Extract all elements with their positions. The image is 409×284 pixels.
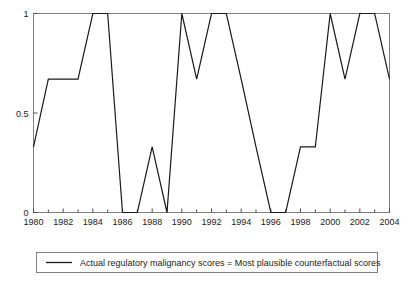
x-tick-label: 1988 <box>142 217 162 227</box>
x-tick-label: 1984 <box>83 217 103 227</box>
x-tick-label: 1992 <box>201 217 221 227</box>
x-tick-label: 2000 <box>320 217 340 227</box>
x-tick-label: 1982 <box>53 217 73 227</box>
x-tick-label: 1996 <box>261 217 281 227</box>
legend-entry-label: Actual regulatory malignancy scores = Mo… <box>80 258 381 268</box>
y-tick-label: 0.5 <box>16 109 29 119</box>
x-tick-label: 2004 <box>379 217 399 227</box>
chart-figure: 00.51 1980198219841986198819901992199419… <box>0 0 409 284</box>
x-tick-label: 2002 <box>350 217 370 227</box>
x-tick-label: 1986 <box>112 217 132 227</box>
x-tick-label: 1990 <box>172 217 192 227</box>
line-chart: 00.51 1980198219841986198819901992199419… <box>0 0 409 284</box>
x-tick-label: 1998 <box>290 217 310 227</box>
x-tick-label: 1980 <box>23 217 43 227</box>
x-tick-label: 1994 <box>231 217 251 227</box>
y-tick-label: 1 <box>23 9 28 19</box>
